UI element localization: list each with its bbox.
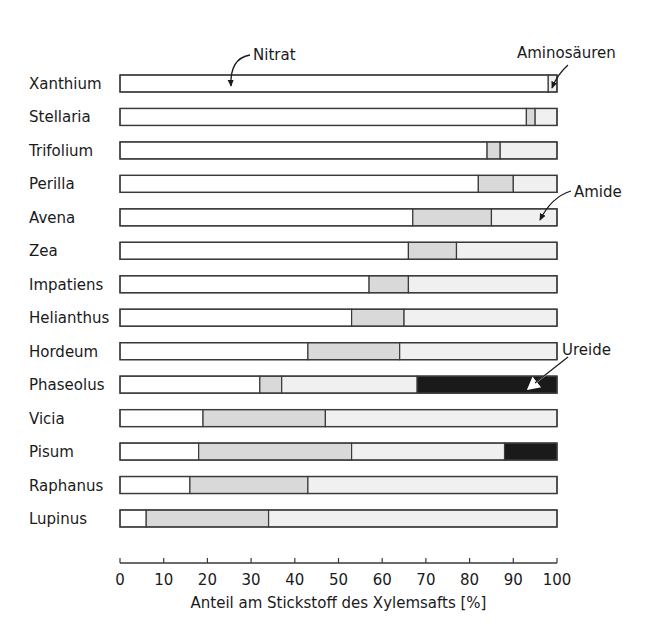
x-tick-label: 90 <box>504 571 523 589</box>
bar-impatiens <box>120 276 557 293</box>
category-label: Lupinus <box>29 510 87 528</box>
segment-aminosäuren <box>478 175 513 192</box>
category-label: Impatiens <box>29 276 104 294</box>
category-label: Pisum <box>29 443 74 461</box>
segment-amide <box>400 343 557 360</box>
x-tick-label: 100 <box>543 571 572 589</box>
category-label: Zea <box>29 242 58 260</box>
segment-amide <box>548 75 557 92</box>
x-tick-label: 20 <box>198 571 217 589</box>
x-tick-label: 10 <box>154 571 173 589</box>
category-label: Stellaria <box>29 108 91 126</box>
segment-nitrat <box>120 343 308 360</box>
amide-label: Amide <box>574 183 622 201</box>
segment-aminosäuren <box>352 309 404 326</box>
segment-nitrat <box>120 376 260 393</box>
bar-pisum <box>120 443 557 460</box>
segment-aminosäuren <box>369 276 408 293</box>
segment-amide <box>456 242 557 259</box>
segment-aminosäuren <box>260 376 282 393</box>
segment-aminosäuren <box>203 410 325 427</box>
segment-amide <box>408 276 557 293</box>
segment-amide <box>352 443 505 460</box>
bar-perilla <box>120 175 557 192</box>
segment-amide <box>282 376 417 393</box>
category-label: Vicia <box>29 410 65 428</box>
x-tick-label: 30 <box>242 571 261 589</box>
category-label: Trifolium <box>28 142 93 160</box>
bar-zea <box>120 242 557 259</box>
aminosaeuren-label: Aminosäuren <box>517 44 616 62</box>
bar-xanthium <box>120 75 557 92</box>
x-tick-label: 70 <box>416 571 435 589</box>
category-label: Hordeum <box>29 343 98 361</box>
bar-avena <box>120 209 557 226</box>
segment-amide <box>513 175 557 192</box>
segment-aminosäuren <box>526 108 535 125</box>
segment-nitrat <box>120 75 548 92</box>
segment-nitrat <box>120 443 199 460</box>
category-label: Phaseolus <box>29 376 105 394</box>
bar-vicia <box>120 410 557 427</box>
category-label: Raphanus <box>29 477 104 495</box>
bars-group <box>120 75 557 527</box>
stacked-bar-chart: XanthiumStellariaTrifoliumPerillaAvenaZe… <box>0 0 663 640</box>
segment-aminosäuren <box>487 142 500 159</box>
segment-nitrat <box>120 276 369 293</box>
bar-trifolium <box>120 142 557 159</box>
segment-nitrat <box>120 309 352 326</box>
x-tick-label: 40 <box>285 571 304 589</box>
bar-hordeum <box>120 343 557 360</box>
segment-amide <box>491 209 557 226</box>
bar-phaseolus <box>120 376 557 393</box>
x-axis-title: Anteil am Stickstoff des Xylemsafts [%] <box>191 594 487 612</box>
segment-nitrat <box>120 410 203 427</box>
segment-aminosäuren <box>408 242 456 259</box>
bar-stellaria <box>120 108 557 125</box>
segment-aminosäuren <box>190 477 308 494</box>
segment-nitrat <box>120 142 487 159</box>
x-tick-label: 60 <box>373 571 392 589</box>
segment-aminosäuren <box>413 209 492 226</box>
category-label: Xanthium <box>29 75 102 93</box>
segment-aminosäuren <box>308 343 400 360</box>
bar-raphanus <box>120 477 557 494</box>
segment-aminosäuren <box>146 510 268 527</box>
segment-amide <box>535 108 557 125</box>
segment-amide <box>404 309 557 326</box>
segment-ureide <box>505 443 557 460</box>
category-label: Helianthus <box>29 309 109 327</box>
category-labels: XanthiumStellariaTrifoliumPerillaAvenaZe… <box>28 75 109 528</box>
segment-aminosäuren <box>199 443 352 460</box>
category-label: Perilla <box>29 175 75 193</box>
segment-amide <box>269 510 557 527</box>
segment-amide <box>308 477 557 494</box>
segment-nitrat <box>120 510 146 527</box>
x-tick-label: 80 <box>460 571 479 589</box>
bar-lupinus <box>120 510 557 527</box>
ureide-label: Ureide <box>562 341 611 359</box>
x-axis: 0102030405060708090100Anteil am Sticksto… <box>115 558 571 612</box>
segment-amide <box>500 142 557 159</box>
nitrat-label: Nitrat <box>253 46 296 64</box>
segment-ureide <box>417 376 557 393</box>
segment-amide <box>325 410 557 427</box>
segment-nitrat <box>120 108 526 125</box>
bar-helianthus <box>120 309 557 326</box>
segment-nitrat <box>120 242 408 259</box>
segment-nitrat <box>120 209 413 226</box>
x-tick-label: 50 <box>329 571 348 589</box>
segment-nitrat <box>120 175 478 192</box>
segment-nitrat <box>120 477 190 494</box>
x-tick-label: 0 <box>115 571 125 589</box>
category-label: Avena <box>29 209 75 227</box>
